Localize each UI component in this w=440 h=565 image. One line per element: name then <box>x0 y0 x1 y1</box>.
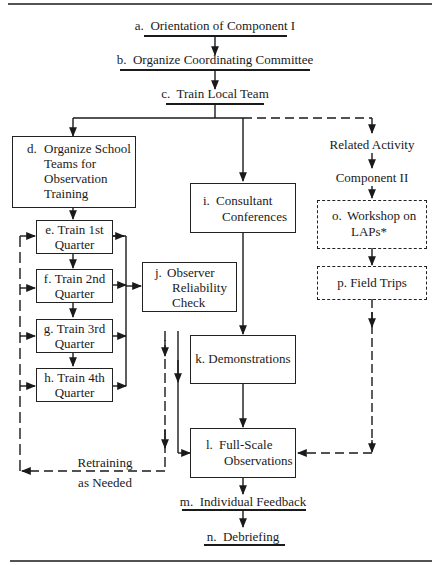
node-i-line-1: Consultant <box>216 193 272 208</box>
node-m: m. Individual Feedback <box>170 494 316 509</box>
node-p-text: p. Field Trips <box>318 275 426 290</box>
node-f-line-1: f. Train 2nd <box>37 271 112 286</box>
related-activity-label: Related Activity <box>322 137 422 152</box>
node-g: g. Train 3rd Quarter <box>36 319 113 353</box>
node-g-line-1: g. Train 3rd <box>37 321 112 336</box>
node-a-label: Orientation of Component I <box>150 18 295 33</box>
node-o-letter: o. <box>332 208 342 223</box>
node-d-letter: d. <box>27 141 37 156</box>
node-i-line-2: Conferences <box>222 209 287 224</box>
node-h: h. Train 4th Quarter <box>36 368 113 402</box>
node-k-text: k. Demonstrations <box>191 351 295 366</box>
node-o: o. Workshop on LAPs* <box>317 200 427 249</box>
node-d-line-1: Organize School <box>44 141 131 156</box>
node-c-letter: c. <box>161 86 170 101</box>
node-f: f. Train 2nd Quarter <box>36 269 113 303</box>
node-j-line-2: Reliability <box>172 280 227 295</box>
node-p: p. Field Trips <box>317 266 427 300</box>
node-a: a. Orientation of Component I <box>130 18 300 33</box>
node-j-line-1: Observer <box>167 265 215 280</box>
node-b: b. Organize Coordinating Committee <box>110 52 320 67</box>
node-j-letter: j. <box>155 265 162 280</box>
node-n: n. Debriefing <box>195 529 291 544</box>
node-d-line-4: Training <box>44 186 88 201</box>
node-d-line-2: Teams for <box>44 156 96 171</box>
node-l: l. Full-Scale Observations <box>190 428 296 478</box>
node-m-letter: m. <box>180 494 193 509</box>
node-m-label: Individual Feedback <box>200 494 307 509</box>
node-c-label: Train Local Team <box>177 86 269 101</box>
node-l-line-1: Full-Scale <box>219 437 272 452</box>
node-l-letter: l. <box>206 437 213 452</box>
node-d: d. Organize School Teams for Observation… <box>12 136 136 208</box>
node-h-line-1: h. Train 4th <box>37 370 112 385</box>
retraining-label-2: as Needed <box>60 475 150 490</box>
node-f-line-2: Quarter <box>37 286 112 301</box>
node-d-line-3: Observation <box>44 171 108 186</box>
node-j: j. Observer Reliability Check <box>142 262 237 312</box>
node-k: k. Demonstrations <box>190 335 296 384</box>
node-j-line-3: Check <box>172 295 205 310</box>
node-a-letter: a. <box>135 18 144 33</box>
node-i-letter: i. <box>203 193 210 208</box>
node-o-line-2: LAPs* <box>351 224 387 239</box>
node-l-line-2: Observations <box>224 453 293 468</box>
node-n-letter: n. <box>207 529 217 544</box>
retraining-label-1: Retraining <box>60 455 150 470</box>
node-e-line-2: Quarter <box>37 237 112 252</box>
node-i: i. Consultant Conferences <box>190 183 296 233</box>
node-o-line-1: Workshop on <box>347 208 416 223</box>
node-h-line-2: Quarter <box>37 385 112 400</box>
component-ii-label: Component II <box>322 170 422 185</box>
node-g-line-2: Quarter <box>37 336 112 351</box>
node-e: e. Train 1st Quarter <box>36 220 113 254</box>
node-c: c. Train Local Team <box>150 86 280 101</box>
node-b-label: Organize Coordinating Committee <box>133 52 313 67</box>
node-b-letter: b. <box>117 52 127 67</box>
node-e-line-1: e. Train 1st <box>37 222 112 237</box>
node-n-label: Debriefing <box>223 529 279 544</box>
